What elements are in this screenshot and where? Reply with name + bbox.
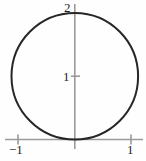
- y-axis-label-2: 2: [64, 1, 71, 14]
- circle-plot-figure: 2 1 −1 1: [0, 0, 146, 161]
- y-axis-label-1: 1: [63, 70, 70, 83]
- x-axis-label-1: 1: [127, 143, 134, 156]
- plot-canvas: [0, 0, 146, 161]
- x-axis-label-neg-1: −1: [9, 143, 23, 156]
